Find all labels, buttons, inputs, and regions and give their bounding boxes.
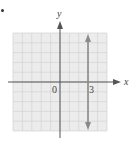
origin-label: 0 xyxy=(52,84,57,95)
coordinate-graph: x y 0 3 xyxy=(0,0,135,147)
y-axis-label: y xyxy=(56,8,62,19)
tick-label-3: 3 xyxy=(89,84,94,95)
x-axis-label: x xyxy=(123,76,129,87)
y-axis-arrow-icon xyxy=(57,21,63,29)
x-axis-arrow-icon xyxy=(113,79,121,85)
